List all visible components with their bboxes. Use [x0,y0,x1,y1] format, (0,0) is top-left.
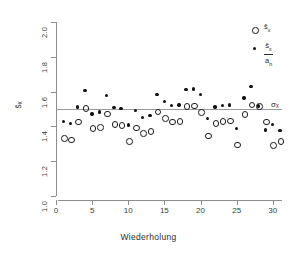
data-point [112,106,115,109]
data-point [213,105,216,108]
data-point [155,93,158,96]
y-tick-label: 1.2 [40,161,49,183]
data-point [235,127,238,130]
legend-item-sx-over-an: s̄x an [252,41,297,60]
x-tick-label: 5 [80,206,104,215]
data-point [278,129,281,132]
data-point [192,87,195,90]
data-point [234,142,241,149]
x-tick [273,200,274,205]
y-tick-label: 1.8 [40,56,49,78]
filled-circle-icon [253,47,256,50]
x-tick [56,200,57,205]
data-point [98,110,101,113]
data-point [68,137,75,144]
y-tick [51,196,56,197]
data-point [133,125,140,132]
x-tick-label: 20 [189,206,213,215]
data-point [169,119,176,126]
data-point [249,85,252,88]
data-point [162,115,169,122]
data-point [90,125,97,132]
x-tick [201,200,202,205]
data-point [205,133,212,140]
data-point [148,114,151,117]
data-point [83,89,86,92]
data-point [105,94,108,97]
data-point [141,116,144,119]
data-point [220,118,227,125]
x-tick [128,200,129,205]
data-point [76,105,79,108]
x-tick [164,200,165,205]
y-axis-title: s̄ₓ [13,101,23,108]
y-tick-label: 1.4 [40,126,49,148]
data-point [242,111,249,118]
data-point [228,103,231,106]
data-point [97,124,104,131]
data-point [69,122,72,125]
data-point [127,123,130,126]
data-point [155,109,162,116]
scatter-plot-figure: 1.01.21.41.61.82.0 051015202530 s̄ₓ Wied… [0,0,297,256]
legend-label-sx-over-an: s̄x an [264,41,273,68]
data-point [184,103,191,110]
data-point [90,112,93,115]
data-point [112,121,119,128]
x-tick-label: 30 [261,206,285,215]
data-point [126,138,133,145]
y-tick-label: 1.6 [40,91,49,113]
data-point [270,142,277,149]
x-tick-label: 0 [44,206,68,215]
data-point [249,102,256,109]
x-tick [237,200,238,205]
data-point [213,120,220,127]
data-point [278,138,285,145]
plot-data-area [56,22,280,196]
open-circle-icon [252,27,259,34]
legend-label-sx: s̄x [264,22,270,35]
data-point [177,103,180,106]
legend: s̄x s̄x an [252,22,297,60]
data-point [263,119,270,126]
data-point [75,119,82,126]
data-point [271,123,274,126]
data-point [140,130,147,137]
data-point [191,103,198,110]
data-point [148,128,155,135]
x-tick [92,200,93,205]
x-tick-label: 10 [116,206,140,215]
data-point [163,100,166,103]
data-point [221,104,224,107]
data-point [198,109,205,116]
data-point [62,120,65,123]
data-point [184,88,187,91]
data-point [264,128,267,131]
y-tick-label: 2.0 [40,22,49,44]
data-point [199,93,202,96]
data-point [61,135,68,142]
data-point [170,104,173,107]
data-point [227,118,234,125]
data-point [177,118,184,125]
data-point [119,122,126,129]
x-tick-label: 25 [225,206,249,215]
data-point [83,105,90,112]
x-tick-label: 15 [152,206,176,215]
data-point [104,111,111,118]
data-point [206,117,209,120]
data-point [134,109,137,112]
data-point [257,104,260,107]
data-point [242,96,245,99]
legend-item-sx: s̄x [252,22,297,41]
data-point [119,107,122,110]
x-axis-title: Wiederholung [0,232,297,242]
